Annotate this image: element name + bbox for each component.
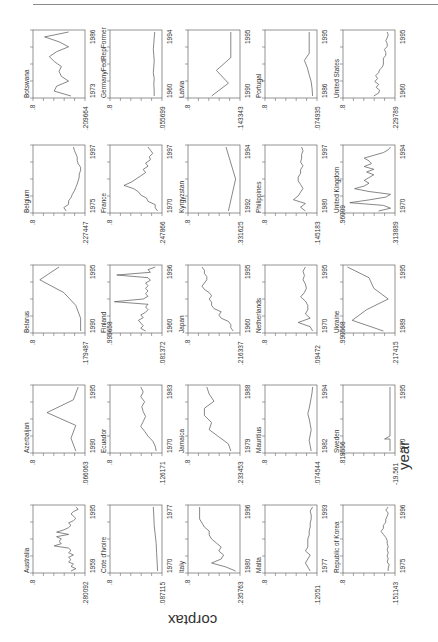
- chart-grid: Botswana.8.20966419731986GermanyFedRepFo…: [0, 0, 438, 642]
- x-start-label: 1960: [399, 83, 406, 98]
- y-max-label: .8: [29, 339, 36, 345]
- y-max-label: .8: [184, 579, 191, 585]
- panel-finland: Finland.995658.08137219601996: [100, 264, 173, 365]
- y-min-label: .126171: [159, 461, 166, 485]
- panel-united-states: United States.8.22978919601995: [333, 29, 406, 130]
- panel-ukraine: Ukraine.990568.21741519891995: [333, 264, 406, 365]
- x-start-label: 1970: [166, 198, 173, 213]
- x-end-label: 1986: [89, 29, 96, 44]
- panel-botswana: Botswana.8.20966419731986: [23, 29, 96, 130]
- x-start-label: 1982: [321, 438, 328, 453]
- x-end-label: 1994: [166, 29, 173, 44]
- y-min-label: .216337: [237, 341, 244, 365]
- y-max-label: .8: [261, 459, 268, 465]
- panel-title: Malta: [255, 557, 262, 573]
- x-start-label: 1990: [244, 83, 251, 98]
- y-min-label: .233453: [237, 461, 244, 485]
- y-min-label: .247866: [159, 221, 166, 245]
- y-min-label: .331625: [237, 221, 244, 245]
- y-max-label: .8: [261, 104, 268, 110]
- x-start-label: 1980: [244, 558, 251, 573]
- x-end-label: 1995: [399, 384, 406, 399]
- panel-title: Netherlands: [255, 297, 262, 333]
- x-end-label: 1995: [399, 29, 406, 44]
- y-min-label: .217415: [392, 341, 399, 365]
- y-min-label: .229789: [392, 106, 399, 130]
- x-start-label: 1970: [399, 198, 406, 213]
- y-min-label: .179487: [82, 341, 89, 365]
- panel-philippines: Philippines.8.14518319801997: [255, 144, 328, 245]
- y-min-label: .12051: [314, 585, 321, 605]
- x-end-label: 1983: [166, 384, 173, 399]
- x-end-label: 1994: [244, 144, 251, 159]
- x-start-label: 1990: [89, 318, 96, 333]
- x-axis-title: year: [395, 441, 412, 470]
- panel-title: GermanyFedRepFormer: [100, 26, 108, 98]
- x-start-label: 1979: [244, 438, 251, 453]
- x-end-label: 1996: [166, 264, 173, 279]
- x-end-label: 1988: [244, 384, 251, 399]
- panel-belgium: Belgium.8.22744719751997: [23, 144, 96, 245]
- x-start-label: 1975: [89, 198, 96, 213]
- panel-france: France.8.24786619701997: [100, 144, 173, 245]
- panel-title: Cote d'Ivoire: [100, 536, 107, 573]
- y-max-label: .8: [106, 219, 113, 225]
- y-min-label: .313889: [392, 221, 399, 245]
- panel-kyrgyzstan: Kyrgyzstan.8.33162519921994: [178, 144, 251, 245]
- y-min-label: .209664: [82, 106, 89, 130]
- x-start-label: 1975: [399, 558, 406, 573]
- panel-title: Japan: [178, 315, 186, 333]
- panel-azerbaijan: Azerbaijan.8.06606319901995: [23, 384, 96, 485]
- panel-title: Republic of Korea: [333, 521, 341, 573]
- y-max-label: .8: [261, 219, 268, 225]
- x-end-label: 1977: [166, 504, 173, 519]
- y-max-label: .8: [106, 579, 113, 585]
- x-end-label: 1995: [89, 384, 96, 399]
- y-min-label: .143343: [237, 106, 244, 130]
- y-max-label: .8: [261, 339, 268, 345]
- panel-title: United States: [333, 58, 340, 98]
- x-end-label: 1996: [244, 504, 251, 519]
- x-end-label: 1996: [399, 504, 406, 519]
- panel-title: Latvia: [178, 80, 185, 98]
- x-start-label: 1977: [321, 558, 328, 573]
- y-min-label: .055699: [159, 106, 166, 130]
- x-end-label: 1995: [244, 264, 251, 279]
- panel-netherlands: Netherlands.8.0947219701995: [255, 264, 328, 365]
- panel-title: Italy: [178, 560, 186, 573]
- y-max-label: .8: [184, 459, 191, 465]
- y-axis-title: corptax: [168, 612, 217, 629]
- panel-united-kingdom: United Kingdom.96009.31388919701994: [333, 144, 406, 245]
- y-max-label: .8: [29, 579, 36, 585]
- x-start-label: 1970: [166, 438, 173, 453]
- y-max-label: .8: [184, 104, 191, 110]
- y-max-label: .8: [29, 104, 36, 110]
- y-max-label: .8: [29, 459, 36, 465]
- x-start-label: 1980: [321, 198, 328, 213]
- x-start-label: 1989: [399, 318, 406, 333]
- panel-title: Philippines: [255, 181, 263, 213]
- y-min-label: .087115: [159, 582, 166, 605]
- y-min-label: .066063: [82, 461, 89, 485]
- panel-title: Portugal: [255, 73, 263, 98]
- y-max-label: .990568: [339, 321, 346, 345]
- panel-title: Belarus: [23, 310, 30, 333]
- x-start-label: 1970: [166, 558, 173, 573]
- panel-australia: Australia.8.28009219591995: [23, 504, 96, 605]
- panel-republic-of-korea: Republic of Korea.8.15114319751996: [333, 504, 406, 605]
- panel-ecuador: Ecuador.8.12617119701983: [100, 384, 173, 485]
- y-min-label: .145183: [314, 221, 321, 245]
- x-end-label: 1995: [89, 504, 96, 519]
- y-min-label: .074544: [314, 461, 321, 485]
- x-end-label: 1995: [321, 29, 328, 44]
- panel-title: Jamaica: [178, 428, 185, 453]
- y-max-label: .819556: [339, 441, 346, 465]
- x-start-label: 1992: [244, 198, 251, 213]
- x-start-label: 1973: [89, 83, 96, 98]
- panel-title: Azerbaijan: [23, 422, 31, 453]
- y-min-label: .151143: [392, 582, 399, 605]
- panel-title: Ecuador: [100, 428, 107, 453]
- y-min-label: .280092: [82, 581, 89, 605]
- x-end-label: 1995: [244, 29, 251, 44]
- x-start-label: 1960: [166, 83, 173, 98]
